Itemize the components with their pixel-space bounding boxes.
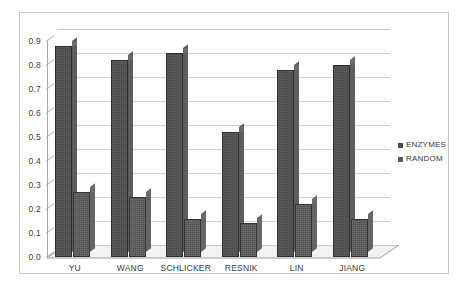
bar-face bbox=[129, 197, 146, 257]
bar-top-3d bbox=[368, 214, 373, 219]
bar-wang-random[interactable] bbox=[129, 197, 146, 257]
gridline bbox=[57, 53, 390, 54]
bar-jiang-random[interactable] bbox=[351, 219, 368, 257]
bar-jiang-enzymes[interactable] bbox=[333, 65, 350, 257]
y-tick-label: 0.3 bbox=[15, 180, 41, 190]
bar-top-3d bbox=[201, 214, 206, 219]
y-tick-label: 0.2 bbox=[15, 204, 41, 214]
bar-face bbox=[73, 192, 90, 257]
bar-resnik-enzymes[interactable] bbox=[222, 132, 239, 257]
bar-face bbox=[166, 53, 183, 257]
bar-face bbox=[277, 70, 294, 257]
bar-side-3d bbox=[90, 184, 95, 252]
y-tick-label: 0.6 bbox=[15, 108, 41, 118]
bar-top-3d bbox=[239, 127, 244, 132]
bar-lin-random[interactable] bbox=[295, 204, 312, 257]
square-swatch-icon bbox=[398, 143, 403, 148]
bar-face bbox=[184, 219, 201, 257]
bar-face bbox=[222, 132, 239, 257]
bar-face bbox=[295, 204, 312, 257]
bar-top-3d bbox=[72, 41, 77, 46]
y-tick-label: 0.7 bbox=[15, 84, 41, 94]
bar-lin-enzymes[interactable] bbox=[277, 70, 294, 257]
legend-label-random: RANDOM bbox=[406, 152, 443, 166]
bar-top-3d bbox=[294, 65, 299, 70]
category-label-jiang: JIANG bbox=[319, 263, 387, 273]
bar-top-3d bbox=[146, 192, 151, 197]
legend-label-enzymes: ENZYMES bbox=[406, 138, 446, 152]
gridline bbox=[57, 29, 390, 30]
bar-top-3d bbox=[90, 187, 95, 192]
bar-face bbox=[111, 60, 128, 257]
chart-legend: ENZYMES RANDOM bbox=[398, 138, 446, 166]
y-tick-label: 0.9 bbox=[15, 36, 41, 46]
bar-wang-enzymes[interactable] bbox=[111, 60, 128, 257]
bar-face bbox=[351, 219, 368, 257]
bar-top-3d bbox=[312, 199, 317, 204]
bar-schlicker-random[interactable] bbox=[184, 219, 201, 257]
bar-face bbox=[55, 46, 72, 257]
bar-top-3d bbox=[257, 218, 262, 223]
legend-item-enzymes[interactable]: ENZYMES bbox=[398, 138, 446, 152]
bar-top-3d bbox=[350, 60, 355, 65]
bar-yu-random[interactable] bbox=[73, 192, 90, 257]
bar-yu-enzymes[interactable] bbox=[55, 46, 72, 257]
y-axis-line bbox=[47, 41, 48, 257]
y-tick-label: 0.8 bbox=[15, 60, 41, 70]
bar-face bbox=[333, 65, 350, 257]
chart-screenshot: 0.90.80.70.60.50.40.30.20.10.0 YUWANGSCH… bbox=[0, 0, 470, 299]
square-swatch-icon bbox=[398, 157, 403, 162]
bar-top-3d bbox=[128, 55, 133, 60]
y-tick-label: 0.4 bbox=[15, 156, 41, 166]
y-tick-label: 0.1 bbox=[15, 228, 41, 238]
bar-resnik-random[interactable] bbox=[240, 223, 257, 257]
bar-schlicker-enzymes[interactable] bbox=[166, 53, 183, 257]
legend-item-random[interactable]: RANDOM bbox=[398, 152, 446, 166]
bar-top-3d bbox=[183, 48, 188, 53]
bar-side-3d bbox=[146, 188, 151, 252]
bar-face bbox=[240, 223, 257, 257]
y-tick-label: 0.0 bbox=[15, 252, 41, 262]
y-tick-label: 0.5 bbox=[15, 132, 41, 142]
